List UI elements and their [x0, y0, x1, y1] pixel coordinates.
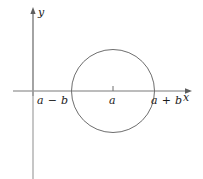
label-left-intercept: a − b — [37, 95, 68, 106]
y-axis-label: y — [38, 7, 45, 18]
label-center-a: a — [109, 95, 116, 106]
coordinate-plane-figure — [0, 0, 203, 179]
x-axis-label: x — [183, 92, 190, 103]
y-axis-arrowhead — [30, 7, 35, 14]
label-right-intercept: a + b — [151, 95, 182, 106]
